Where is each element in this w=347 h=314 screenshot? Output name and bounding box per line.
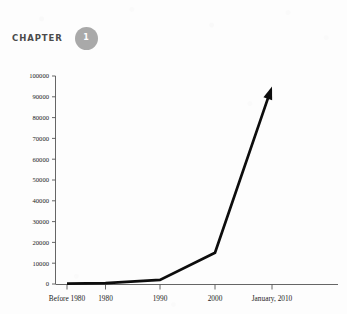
y-tick-label: 20000 xyxy=(33,239,50,246)
x-axis-tick-marks xyxy=(67,285,272,290)
chapter-number: 1 xyxy=(83,34,89,42)
chapter-header: CHAPTER 1 xyxy=(12,24,98,52)
chart-svg: 0100002000030000400005000060000700008000… xyxy=(0,60,347,314)
x-tick-label: 1990 xyxy=(153,294,168,303)
chapter-label: CHAPTER xyxy=(12,34,63,43)
y-tick-label: 30000 xyxy=(33,218,50,225)
x-axis-tick-labels: Before 1980198019902000January, 2010 xyxy=(49,294,293,303)
y-axis-tick-labels: 0100002000030000400005000060000700008000… xyxy=(29,72,49,287)
y-tick-label: 0 xyxy=(46,280,50,287)
y-tick-label: 50000 xyxy=(33,176,50,183)
y-tick-label: 100000 xyxy=(29,72,49,79)
y-tick-label: 10000 xyxy=(33,260,50,267)
y-tick-label: 70000 xyxy=(33,135,50,142)
chapter-number-badge: 1 xyxy=(75,27,98,50)
x-tick-label: January, 2010 xyxy=(252,294,293,303)
x-tick-label: 1980 xyxy=(98,294,113,303)
y-axis-tick-marks xyxy=(52,76,56,284)
y-tick-label: 60000 xyxy=(33,156,50,163)
trend-arrow-head xyxy=(263,86,272,100)
y-tick-label: 80000 xyxy=(33,114,50,121)
data-series-line xyxy=(67,96,269,284)
y-tick-label: 40000 xyxy=(33,197,50,204)
x-tick-label: Before 1980 xyxy=(49,294,86,303)
x-tick-label: 2000 xyxy=(208,294,223,303)
y-tick-label: 90000 xyxy=(33,93,50,100)
growth-line-chart: 0100002000030000400005000060000700008000… xyxy=(0,60,347,314)
